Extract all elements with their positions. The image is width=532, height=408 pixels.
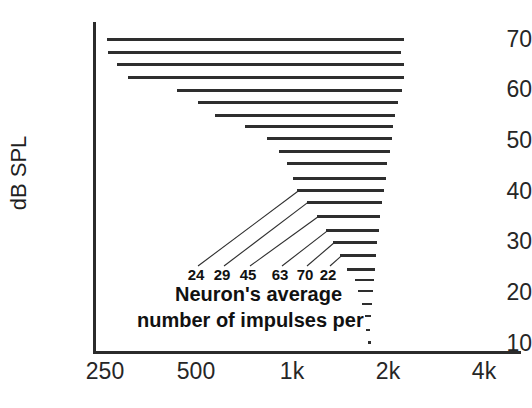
x-axis-line: [93, 351, 521, 354]
response-bar: [267, 137, 391, 140]
annotation-line-1: Neuron's average: [175, 283, 342, 306]
response-bar: [326, 229, 378, 232]
leader-line: [198, 191, 298, 266]
response-bar: [355, 279, 374, 281]
impulse-count-label: 70: [295, 266, 315, 283]
response-bar: [358, 290, 373, 292]
impulse-count-label: 63: [270, 266, 290, 283]
y-tick-label-10: 10: [486, 332, 532, 355]
y-tick-label-40: 40: [486, 180, 532, 203]
y-axis-line: [93, 22, 96, 354]
response-bar: [117, 63, 405, 66]
response-bar: [340, 254, 376, 257]
response-bar: [198, 101, 398, 104]
y-axis-title: dB SPL: [6, 118, 32, 228]
x-tick-label-1k: 1k: [252, 360, 332, 383]
response-bar: [347, 268, 375, 271]
x-tick-label-500: 500: [156, 360, 236, 383]
chart-container: dB SPL 70 60 50 40 30 20 10 250 500 1k 2…: [0, 0, 532, 408]
response-bar: [245, 125, 393, 128]
x-tick-label-4k: 4k: [444, 360, 524, 383]
response-bar: [108, 51, 401, 54]
response-bar: [128, 76, 404, 79]
leader-line: [224, 203, 308, 266]
response-bar: [365, 315, 371, 317]
y-tick-label-30: 30: [486, 230, 532, 253]
data-point-marker: [368, 341, 371, 344]
annotation-line-2: number of impulses per: [137, 309, 364, 332]
response-bar: [333, 241, 377, 244]
leader-line: [330, 256, 341, 266]
response-bar: [307, 201, 382, 204]
x-tick-label-2k: 2k: [348, 360, 428, 383]
x-tick-label-250: 250: [65, 360, 145, 383]
y-tick-label-20: 20: [486, 281, 532, 304]
y-tick-label-60: 60: [486, 78, 532, 101]
impulse-count-label: 24: [186, 266, 206, 283]
response-bar: [297, 189, 384, 192]
response-bar: [107, 38, 404, 41]
leader-lines-group: [0, 0, 532, 408]
response-bar: [293, 177, 386, 180]
impulse-count-label: 22: [318, 266, 338, 283]
response-bar: [362, 303, 373, 305]
response-bar: [215, 114, 395, 117]
response-bar: [287, 162, 388, 165]
response-bar: [317, 215, 380, 218]
y-tick-label-50: 50: [486, 129, 532, 152]
y-tick-label-70: 70: [486, 28, 532, 51]
impulse-count-label: 29: [212, 266, 232, 283]
leader-line: [250, 217, 318, 266]
leader-line: [307, 243, 334, 266]
impulse-count-label: 45: [238, 266, 258, 283]
response-bar: [366, 329, 371, 331]
response-bar: [177, 89, 402, 92]
response-bar: [279, 150, 390, 153]
leader-line: [282, 231, 327, 266]
